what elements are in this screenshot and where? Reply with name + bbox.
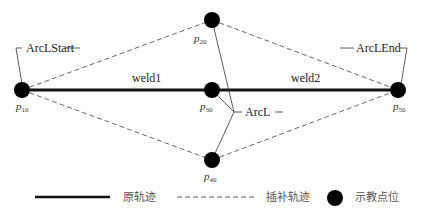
annotation-arclend: ArcLEnd <box>356 41 401 55</box>
label-p40: p40 <box>203 170 217 184</box>
point-p10 <box>14 82 30 98</box>
trajectory-diagram: p10 p20 p30 p40 p50 weld1 weld2 ArcLStar… <box>0 0 421 220</box>
segment-label-weld2: weld2 <box>291 71 320 85</box>
legend-label-teaching-point: 示教点位 <box>355 190 399 204</box>
point-p40 <box>204 152 220 168</box>
point-p30 <box>204 82 220 98</box>
label-p20: p20 <box>193 32 207 46</box>
annotation-arcl: ArcL <box>245 105 270 119</box>
legend-point-icon <box>327 190 343 206</box>
annotation-arclstart: ArcLStart <box>26 41 75 55</box>
legend: 原轨迹 插补轨迹 示教点位 <box>35 190 399 206</box>
label-p10: p10 <box>15 100 29 114</box>
segment-label-weld1: weld1 <box>132 71 161 85</box>
label-p50: p50 <box>392 100 406 114</box>
legend-label-original: 原轨迹 <box>123 190 156 204</box>
legend-label-interpolated: 插补轨迹 <box>266 190 310 204</box>
label-p30: p30 <box>199 100 213 114</box>
point-p50 <box>390 82 406 98</box>
point-p20 <box>204 12 220 28</box>
